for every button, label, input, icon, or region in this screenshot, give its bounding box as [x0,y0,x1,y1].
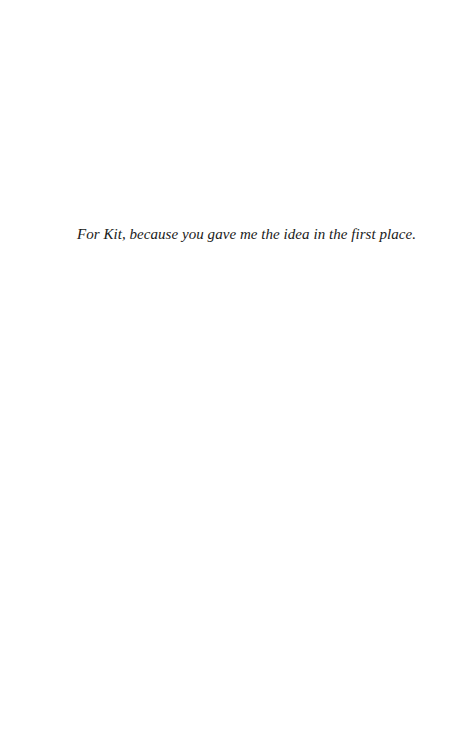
book-page: For Kit, because you gave me the idea in… [0,0,456,742]
dedication-text: For Kit, because you gave me the idea in… [77,224,377,244]
